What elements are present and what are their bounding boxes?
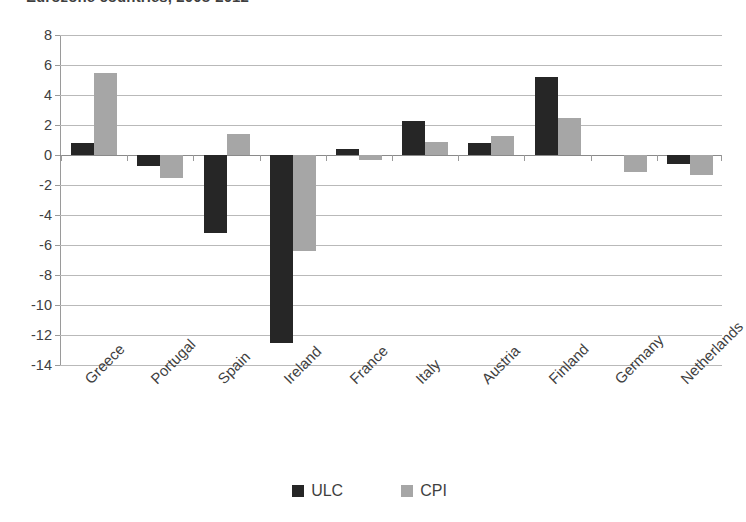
legend-item-cpi[interactable]: CPI xyxy=(401,483,447,499)
legend-label: ULC xyxy=(311,483,343,499)
x-axis-label-finland: Finland xyxy=(545,340,592,387)
chart-legend: ULCCPI xyxy=(0,483,739,499)
legend-item-ulc[interactable]: ULC xyxy=(292,483,343,499)
x-axis-label-austria: Austria xyxy=(478,342,523,387)
x-axis-label-greece: Greece xyxy=(81,340,128,387)
x-axis-label-france: France xyxy=(346,342,391,387)
x-axis-label-netherlands: Netherlands xyxy=(677,318,746,387)
legend-swatch-icon xyxy=(401,485,413,497)
x-axis-label-italy: Italy xyxy=(412,356,443,387)
legend-label: CPI xyxy=(420,483,447,499)
x-axis-label-spain: Spain xyxy=(214,348,253,387)
x-axis-label-portugal: Portugal xyxy=(147,335,199,387)
x-axis-label-ireland: Ireland xyxy=(280,343,324,387)
legend-swatch-icon xyxy=(292,485,304,497)
x-axis-label-germany: Germany xyxy=(611,331,667,387)
